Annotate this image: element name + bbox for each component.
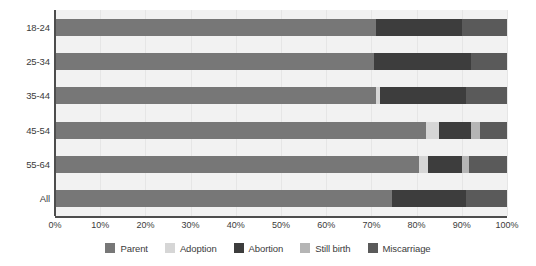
bar-segment[interactable] <box>466 87 507 104</box>
bar-row[interactable] <box>55 87 507 104</box>
bar-segment[interactable] <box>466 190 507 207</box>
x-axis-tick-label: 80% <box>408 220 426 230</box>
stacked-bar-chart: 18-2425-3435-4445-5455-64All 0%10%20%30%… <box>0 0 536 266</box>
legend-item[interactable]: Adoption <box>165 243 217 254</box>
x-axis-tick-label: 0% <box>48 220 61 230</box>
legend-swatch <box>105 243 115 253</box>
bar-row[interactable] <box>55 122 507 139</box>
bar-segment[interactable] <box>462 19 507 36</box>
x-axis-line <box>55 216 507 218</box>
x-axis-tick-label: 90% <box>453 220 471 230</box>
bar-segment[interactable] <box>439 122 471 139</box>
y-axis-tick-label: 18-24 <box>0 23 50 33</box>
legend-label: Parent <box>120 243 147 254</box>
x-axis-tick-label: 50% <box>272 220 290 230</box>
x-axis-tick-label: 70% <box>362 220 380 230</box>
bar-segment[interactable] <box>55 87 376 104</box>
bar-segment[interactable] <box>419 156 428 173</box>
bar-row[interactable] <box>55 156 507 173</box>
bar-segment[interactable] <box>380 87 466 104</box>
y-axis-tick-label: All <box>0 194 50 204</box>
legend-item[interactable]: Parent <box>105 243 147 254</box>
bar-row[interactable] <box>55 19 507 36</box>
bar-segment[interactable] <box>471 122 480 139</box>
bar-segment[interactable] <box>376 19 462 36</box>
x-axis-tick-label: 30% <box>182 220 200 230</box>
legend-item[interactable]: Abortion <box>234 243 284 254</box>
gridline <box>507 10 508 216</box>
y-axis-line <box>54 10 56 216</box>
bar-segment[interactable] <box>462 156 469 173</box>
x-axis-labels: 0%10%20%30%40%50%60%70%80%90%100% <box>55 220 507 234</box>
plot-area <box>55 10 507 216</box>
bar-segment[interactable] <box>469 156 507 173</box>
legend-item[interactable]: Miscarriage <box>368 243 431 254</box>
bar-segment[interactable] <box>55 19 376 36</box>
legend-swatch <box>234 243 244 253</box>
bar-segment[interactable] <box>426 122 440 139</box>
legend-label: Adoption <box>180 243 217 254</box>
bar-segment[interactable] <box>428 156 462 173</box>
bar-segment[interactable] <box>374 53 471 70</box>
bar-segment[interactable] <box>471 53 507 70</box>
x-axis-tick-label: 100% <box>495 220 518 230</box>
y-axis-labels: 18-2425-3435-4445-5455-64All <box>0 10 50 216</box>
legend-swatch <box>165 243 175 253</box>
legend-label: Still birth <box>315 243 350 254</box>
bar-row[interactable] <box>55 190 507 207</box>
y-axis-tick-label: 45-54 <box>0 126 50 136</box>
legend-label: Abortion <box>249 243 284 254</box>
legend-label: Miscarriage <box>383 243 431 254</box>
bar-row[interactable] <box>55 53 507 70</box>
legend-swatch <box>300 243 310 253</box>
x-axis-tick-label: 10% <box>91 220 109 230</box>
legend-item[interactable]: Still birth <box>300 243 350 254</box>
bar-segment[interactable] <box>55 190 392 207</box>
y-axis-tick-label: 25-34 <box>0 57 50 67</box>
bar-segment[interactable] <box>55 156 419 173</box>
bars-layer <box>55 10 507 216</box>
bar-segment[interactable] <box>392 190 467 207</box>
y-axis-tick-label: 55-64 <box>0 160 50 170</box>
bar-segment[interactable] <box>55 53 374 70</box>
y-axis-tick-label: 35-44 <box>0 91 50 101</box>
bar-segment[interactable] <box>480 122 507 139</box>
x-axis-tick-label: 40% <box>227 220 245 230</box>
x-axis-tick-label: 60% <box>317 220 335 230</box>
bar-segment[interactable] <box>55 122 426 139</box>
legend-swatch <box>368 243 378 253</box>
x-axis-tick-label: 20% <box>136 220 154 230</box>
chart-legend: ParentAdoptionAbortionStill birthMiscarr… <box>0 239 536 257</box>
